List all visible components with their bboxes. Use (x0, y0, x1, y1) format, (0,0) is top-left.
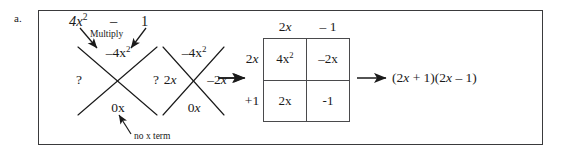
final-answer: (2x + 1)(2x – 1) (392, 71, 477, 85)
table-col-header-1: 2x (279, 20, 292, 34)
table-cell-r1c2: –2x (307, 39, 350, 81)
x-diagram-1-bottom: 0x (111, 101, 125, 115)
x-diagram-2-left: 2x (164, 73, 177, 87)
x-diagram-1-top: –4x2 (106, 46, 131, 60)
expression-operator: – (110, 14, 117, 29)
table-cell-r1c1: 4x2 (264, 39, 307, 81)
table-row: 2x -1 (264, 80, 350, 122)
multiply-label: Multiply (90, 29, 123, 39)
product-table: 4x2 –2x 2x -1 (263, 38, 350, 122)
x-diagram-2-bottom: 0x (188, 101, 201, 115)
x-diagram-2-top: –4x2 (182, 46, 207, 60)
item-label: a. (14, 12, 22, 24)
table-row-header-1: 2x (246, 52, 259, 66)
expression-term-2: 1 (141, 14, 148, 29)
x-diagram-1-left: ? (76, 73, 82, 87)
table-cell-r2c1: 2x (264, 80, 307, 122)
table-col-header-2: – 1 (320, 20, 337, 34)
no-x-term-note: no x term (134, 131, 170, 141)
x-diagram-2-right: –2x (207, 73, 227, 87)
x-diagram-1-right: ? (153, 73, 159, 87)
worked-example-figure: a. (0, 0, 573, 157)
table-cell-r2c2: -1 (307, 80, 350, 122)
expression-term-1: 4x2 (69, 14, 87, 29)
table-row: 4x2 –2x (264, 39, 350, 81)
table-row-header-2: +1 (245, 94, 259, 108)
